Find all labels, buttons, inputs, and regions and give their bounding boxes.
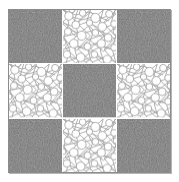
dark-speckle-texture <box>117 119 170 172</box>
cell-r2c2-dark-speckle: cell-r2c2-dark-speckle <box>63 64 116 117</box>
dark-speckle-texture <box>63 64 116 117</box>
cell-r3c2-light-pebble: cell-r3c2-light-pebble <box>63 119 116 172</box>
cell-r1c3-dark-speckle: cell-r1c3-dark-speckle <box>117 10 170 63</box>
light-pebble-texture <box>63 10 116 63</box>
image-canvas: cell-r1c1-dark-speckle cell-r1c2-light-p… <box>0 0 179 182</box>
cell-r1c1-dark-speckle: cell-r1c1-dark-speckle <box>9 10 62 63</box>
light-pebble-texture <box>9 64 62 117</box>
cell-r2c1-light-pebble: cell-r2c1-light-pebble <box>9 64 62 117</box>
dark-speckle-texture <box>9 10 62 63</box>
cell-r2c3-light-pebble: cell-r2c3-light-pebble <box>117 64 170 117</box>
checkerboard-figure: cell-r1c1-dark-speckle cell-r1c2-light-p… <box>8 9 171 173</box>
cell-r1c2-light-pebble: cell-r1c2-light-pebble <box>63 10 116 63</box>
cell-r3c3-dark-speckle: cell-r3c3-dark-speckle <box>117 119 170 172</box>
cell-r3c1-dark-speckle: cell-r3c1-dark-speckle <box>9 119 62 172</box>
light-pebble-texture <box>117 64 170 117</box>
dark-speckle-texture <box>9 119 62 172</box>
dark-speckle-texture <box>117 10 170 63</box>
checkerboard-grid: cell-r1c1-dark-speckle cell-r1c2-light-p… <box>9 10 170 172</box>
light-pebble-texture <box>63 119 116 172</box>
